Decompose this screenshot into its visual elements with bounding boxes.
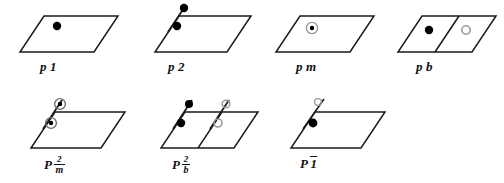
filled-dot-marker — [177, 119, 185, 127]
filled-dot-marker — [180, 4, 188, 12]
caption-p1-suffix: 1 — [50, 59, 57, 74]
plane-group-diagram-figure: p1 p2 pm pb — [0, 0, 504, 183]
caption-p2-prefix: p — [168, 59, 175, 74]
caption-p2-over-b: P2b — [172, 156, 190, 176]
open-circle-marker — [462, 26, 470, 34]
caption-pb: pb — [416, 60, 433, 73]
diagram-p2 — [146, 2, 256, 58]
caption-pm: pm — [296, 60, 317, 73]
caption-p2m-fraction: 2m — [54, 155, 64, 175]
unit-cell-parallelogram — [291, 112, 385, 148]
caption-p1: p1 — [40, 60, 57, 73]
filled-dot-marker — [425, 26, 433, 34]
diagram-pb — [396, 12, 501, 58]
pb-cell-svg — [396, 12, 501, 58]
diagram-p-bar-1 — [278, 96, 390, 154]
caption-p2b-denominator: b — [182, 164, 190, 175]
caption-p2b-fraction: 2b — [182, 155, 190, 175]
caption-p2: p2 — [168, 60, 185, 73]
filled-dot-marker — [53, 22, 61, 30]
caption-pbar1-prefix: P — [300, 156, 308, 171]
caption-pm-suffix: m — [306, 59, 317, 74]
pm-cell-svg — [274, 12, 379, 58]
caption-pb-prefix: p — [416, 59, 423, 74]
unit-cell-parallelogram — [276, 16, 374, 52]
diagram-p1 — [18, 12, 123, 58]
caption-p1-prefix: p — [40, 59, 47, 74]
diagram-p2-over-b — [148, 96, 266, 154]
caption-p2m-prefix: P — [44, 157, 52, 172]
caption-pbar1-suffix: 1 — [310, 156, 317, 171]
caption-p2-suffix: 2 — [178, 59, 185, 74]
caption-p2m-numerator: 2 — [54, 155, 64, 164]
p1-cell-svg — [18, 12, 123, 58]
caption-p2m-denominator: m — [54, 164, 64, 175]
caption-p2b-numerator: 2 — [182, 155, 190, 164]
circled-dot-center — [310, 26, 314, 30]
glide-plane-divider — [435, 16, 459, 52]
filled-dot-marker — [309, 119, 318, 128]
unit-cell-parallelogram — [155, 16, 251, 52]
caption-p2b-prefix: P — [172, 157, 180, 172]
caption-pb-suffix: b — [426, 59, 433, 74]
rotation-axis-line — [210, 100, 229, 129]
filled-dot-marker — [185, 100, 193, 108]
caption-p-bar-1: P1 — [300, 156, 317, 170]
unit-cell-parallelogram — [31, 112, 125, 148]
circled-dot-center — [49, 121, 53, 125]
p2-over-b-cell-svg — [148, 96, 266, 154]
diagram-pm — [274, 12, 379, 58]
filled-dot-marker — [173, 22, 181, 30]
caption-p2-over-m: P2m — [44, 156, 65, 176]
caption-pm-prefix: p — [296, 59, 303, 74]
p-bar-1-cell-svg — [278, 96, 390, 154]
p2-cell-svg — [146, 2, 256, 58]
diagram-p2-over-m — [18, 96, 130, 154]
circled-dot-center — [58, 102, 62, 106]
unit-cell-parallelogram — [20, 16, 118, 52]
open-circle-marker — [315, 99, 322, 106]
caption-pbar1-overbar: 1 — [310, 156, 317, 170]
p2-over-m-cell-svg — [18, 96, 130, 154]
